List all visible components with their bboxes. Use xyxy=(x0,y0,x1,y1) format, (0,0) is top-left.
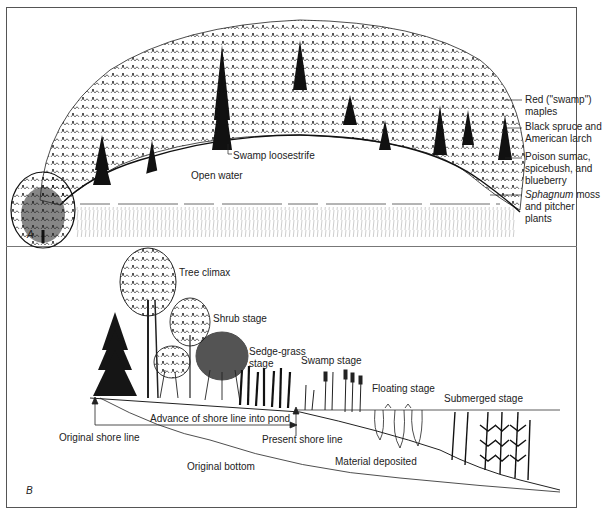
label-floating-stage: Floating stage xyxy=(372,383,435,395)
label-sphagnum-line2: and pitcher xyxy=(525,201,574,213)
label-original-shore-line: Original shore line xyxy=(59,432,140,444)
label-submerged-stage: Submerged stage xyxy=(444,393,523,405)
label-shrub-stage: Shrub stage xyxy=(213,313,267,325)
label-swamp-loosestrife: Swamp loosestrife xyxy=(233,150,315,162)
panel-letter-a: A xyxy=(27,229,34,240)
label-sedge-grass-line2: stage xyxy=(249,358,273,370)
label-poison-sumac-line3: blueberry xyxy=(525,175,567,187)
label-original-bottom: Original bottom xyxy=(187,461,255,473)
left-deciduous-tree xyxy=(11,172,75,248)
shore-ground xyxy=(75,207,515,237)
floating-stage-plants xyxy=(375,404,423,448)
sedge-grass-reeds xyxy=(240,366,290,408)
label-black-spruce-line2: American larch xyxy=(525,133,592,145)
label-sphagnum-line1: Sphagnum moss xyxy=(525,189,600,201)
label-material-deposited: Material deposited xyxy=(335,456,417,468)
label-open-water: Open water xyxy=(191,170,243,182)
label-poison-sumac-line2: spicebush, and xyxy=(525,163,592,175)
label-black-spruce-line1: Black spruce and xyxy=(525,121,602,133)
label-sphagnum-line3: plants xyxy=(525,213,552,225)
label-sphagnum-italic: Sphagnum xyxy=(525,189,573,200)
label-swamp-stage: Swamp stage xyxy=(301,355,362,367)
conifer-b xyxy=(93,312,137,396)
label-advance-of-shore-line: Advance of shore line into pond xyxy=(150,413,290,425)
label-poison-sumac-line1: Poison sumac, xyxy=(525,151,591,163)
label-tree-climax: Tree climax xyxy=(179,267,230,279)
label-sphagnum-rest: moss xyxy=(573,189,600,200)
label-sedge-grass-line1: Sedge-grass xyxy=(249,346,306,358)
label-present-shore-line: Present shore line xyxy=(262,434,343,446)
panel-letter-b: B xyxy=(26,485,33,496)
label-red-maples-line1: Red ("swamp") xyxy=(525,94,592,106)
label-red-maples-line2: maples xyxy=(525,106,557,118)
swamp-stage-cattails xyxy=(305,370,362,412)
submerged-stage-plants xyxy=(452,412,530,480)
